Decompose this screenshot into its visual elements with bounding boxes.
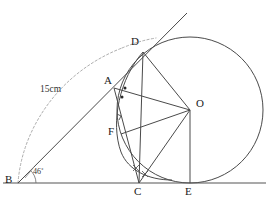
segment-F-O [121, 110, 190, 134]
vertex-label-D: D [131, 36, 139, 47]
vertex-label-O: O [196, 98, 204, 109]
dashed-arc-15cm-upper [122, 38, 156, 48]
segment-A-O [114, 88, 190, 110]
angle-dot-lower-at-A [121, 96, 124, 99]
vertex-label-A: A [104, 75, 112, 86]
segment-D-C [139, 52, 143, 183]
angle-dot-upper-at-A [124, 87, 127, 90]
angle-label-46-degrees: 46˚ [33, 168, 44, 176]
vertex-label-E: E [185, 186, 192, 197]
vertex-label-C: C [134, 186, 141, 197]
dashed-arc-15cm [18, 48, 122, 183]
tangent-ray-BD [18, 13, 187, 183]
vertex-label-F: F [108, 126, 114, 137]
geometry-figure: A B C D E F O 15cm 46˚ [0, 0, 269, 207]
vertex-label-B: B [5, 174, 12, 185]
inner-arc-DFC [117, 52, 172, 180]
segment-D-O [143, 52, 190, 110]
length-label-15cm: 15cm [40, 85, 61, 95]
